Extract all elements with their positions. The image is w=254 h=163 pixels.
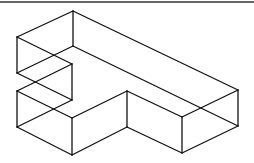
- solid-edges: [17, 11, 238, 155]
- edge-line: [17, 127, 72, 155]
- edge-line: [182, 126, 238, 153]
- edge-line: [17, 11, 73, 37]
- edge-line: [72, 91, 127, 118]
- wireframe-drawing: [0, 0, 254, 163]
- edge-line: [73, 46, 238, 126]
- isometric-diagram: [0, 0, 254, 163]
- edge-line: [73, 11, 238, 90]
- edge-line: [127, 127, 182, 153]
- edge-line: [72, 127, 127, 155]
